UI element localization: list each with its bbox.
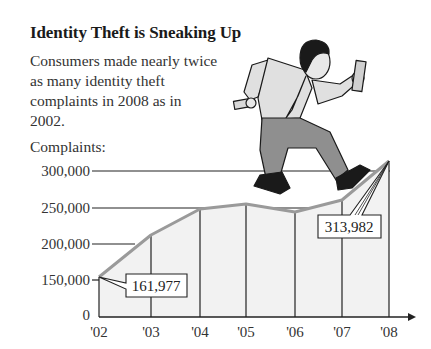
- y-tick-labels: 300,000 250,000 200,000 150,000 0: [41, 163, 90, 323]
- y-tick-0: 0: [83, 307, 91, 323]
- x-tick-02: '02: [90, 324, 108, 340]
- x-tick-08: '08: [380, 324, 398, 340]
- x-tick-03: '03: [142, 324, 160, 340]
- x-tick-labels: '02 '03 '04 '05 '06 '07 '08: [90, 324, 398, 340]
- y-tick-150000: 150,000: [41, 272, 90, 288]
- x-tick-04: '04: [191, 324, 209, 340]
- x-tick-07: '07: [333, 324, 351, 340]
- area-chart: 300,000 250,000 200,000 150,000 0 '02 '0…: [0, 0, 431, 349]
- y-tick-200000: 200,000: [41, 236, 90, 252]
- y-tick-300000: 300,000: [41, 163, 90, 179]
- x-tick-06: '06: [286, 324, 304, 340]
- x-tick-05: '05: [237, 324, 255, 340]
- x-axis-arrow-icon: [408, 313, 416, 321]
- callout-2002-label: 161,977: [132, 278, 181, 294]
- y-tick-250000: 250,000: [41, 200, 90, 216]
- callout-2008-label: 313,982: [325, 219, 374, 235]
